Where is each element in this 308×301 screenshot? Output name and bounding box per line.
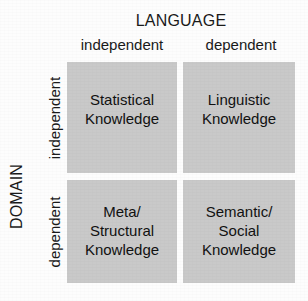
language-axis-title: LANGUAGE [67, 11, 295, 30]
matrix-cell-linguistic-knowledge: Linguistic Knowledge [183, 62, 295, 173]
matrix-cell-label: Statistical Knowledge [67, 90, 177, 128]
matrix-grid: Statistical Knowledge Linguistic Knowled… [67, 62, 295, 283]
matrix-cell-label: Semantic/ Social Knowledge [183, 202, 295, 259]
row-header-independent: independent [46, 62, 64, 174]
matrix-cell-semantic-social-knowledge: Semantic/ Social Knowledge [183, 180, 295, 283]
column-header-dependent: dependent [182, 36, 300, 54]
column-header-independent: independent [62, 36, 182, 54]
knowledge-matrix-figure: LANGUAGE independent dependent DOMAIN in… [0, 0, 308, 301]
matrix-cell-meta-structural-knowledge: Meta/ Structural Knowledge [67, 180, 177, 283]
matrix-cell-label: Meta/ Structural Knowledge [67, 202, 177, 259]
domain-axis-title: DOMAIN [7, 142, 26, 252]
matrix-cell-statistical-knowledge: Statistical Knowledge [67, 62, 177, 173]
matrix-cell-label: Linguistic Knowledge [183, 90, 295, 128]
row-header-dependent: dependent [46, 177, 64, 287]
